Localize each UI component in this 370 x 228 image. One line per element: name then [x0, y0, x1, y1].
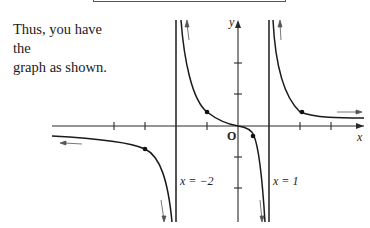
origin-label: O: [227, 129, 236, 143]
asymptote-label-1: x = 1: [272, 174, 298, 188]
point-x-neg1: [205, 110, 210, 115]
arrow-down-left-branch-icon: [161, 200, 166, 222]
arrow-right-icon: [337, 110, 362, 114]
y-axis-label: y: [228, 15, 235, 29]
x-axis-arrow-icon: [356, 123, 364, 129]
point-x-neg3: [143, 147, 148, 152]
asymptote-label-neg2: x = −2: [179, 174, 214, 188]
arrow-left-icon: [60, 141, 82, 145]
point-x-half: [251, 134, 256, 139]
curve-middle-branch: [181, 20, 265, 222]
point-x-2: [300, 110, 305, 115]
x-axis-label: x: [356, 130, 363, 144]
curve-left-branch: [52, 136, 172, 222]
curve-right-branch: [273, 20, 364, 118]
graph: y x O x = −2 x = 1: [0, 0, 370, 228]
arrow-up-middle-branch-icon: [185, 20, 189, 40]
y-axis-arrow-icon: [235, 20, 241, 28]
arrow-up-right-branch-icon: [278, 20, 282, 40]
